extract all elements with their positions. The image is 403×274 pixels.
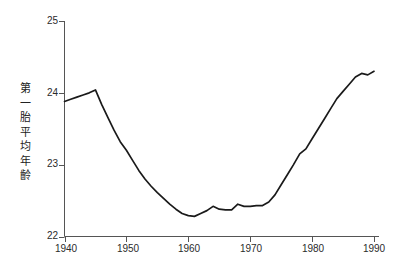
x-tick-label-1950: 1950 <box>108 243 148 254</box>
y-axis-label-char-6: 年 <box>14 155 36 170</box>
chart-figure: 第 一 胎 平 均 年 齡 25 24 23 22 1940 1950 1960… <box>0 0 403 274</box>
data-series-line <box>65 71 375 216</box>
x-tick-label-1960: 1960 <box>169 243 209 254</box>
y-axis-label-char-4: 平 <box>14 126 36 141</box>
y-axis-label: 第 一 胎 平 均 年 齡 <box>14 82 36 184</box>
y-axis-ticks <box>59 22 65 238</box>
y-axis-label-char-3: 胎 <box>14 111 36 126</box>
y-axis-label-char-2: 一 <box>14 97 36 112</box>
y-axis-label-char-7: 齡 <box>14 169 36 184</box>
y-tick-label-25: 25 <box>34 15 58 26</box>
y-tick-label-23: 23 <box>34 158 58 169</box>
x-tick-label-1970: 1970 <box>231 243 271 254</box>
y-axis-label-char-1: 第 <box>14 82 36 97</box>
y-tick-label-24: 24 <box>34 87 58 98</box>
x-tick-label-1980: 1980 <box>293 243 333 254</box>
plot-area <box>0 0 403 274</box>
y-axis-label-char-5: 均 <box>14 140 36 155</box>
y-tick-label-22: 22 <box>34 230 58 241</box>
x-axis-ticks <box>66 237 375 243</box>
x-tick-label-1940: 1940 <box>46 243 86 254</box>
x-tick-label-1990: 1990 <box>354 243 394 254</box>
